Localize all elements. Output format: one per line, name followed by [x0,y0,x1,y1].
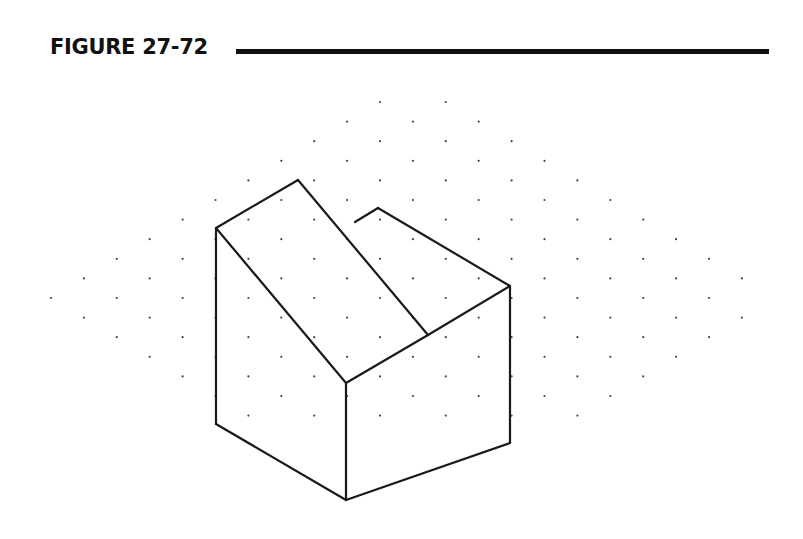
grid-dot [412,160,414,162]
grid-dot [280,238,282,240]
grid-dot [182,336,184,338]
edge-AB [216,180,298,228]
object-edges [216,180,510,500]
grid-dot [346,121,348,123]
grid-dot [708,258,710,260]
grid-dot [609,356,611,358]
grid-dot [116,258,118,260]
grid-dot [313,258,315,260]
grid-dot [445,101,447,103]
grid-dot [708,336,710,338]
grid-dot [412,121,414,123]
grid-dot [445,140,447,142]
grid-dot [478,199,480,201]
grid-dot [576,336,578,338]
grid-dot [280,356,282,358]
grid-dot [379,415,381,417]
grid-dot [543,238,545,240]
edge-CD [346,335,428,383]
grid-dot [478,277,480,279]
grid-dot [511,258,513,260]
grid-dot [675,317,677,319]
grid-dot [182,258,184,260]
grid-dot [313,375,315,377]
grid-dot [149,356,151,358]
grid-dot [445,258,447,260]
grid-dot [313,415,315,417]
grid-dot [511,179,513,181]
grid-dot [379,297,381,299]
grid-dot [149,317,151,319]
grid-dot [445,179,447,181]
grid-dot [478,317,480,319]
grid-dot [379,258,381,260]
grid-dot [741,277,743,279]
grid-dot [280,395,282,397]
grid-dot [543,199,545,201]
grid-dot [247,179,249,181]
edge-CG [428,286,510,335]
grid-dot [642,258,644,260]
grid-dot [642,297,644,299]
grid-dot [247,415,249,417]
grid-dot [445,297,447,299]
grid-dot [50,297,52,299]
grid-dot [346,356,348,358]
grid-dot [478,356,480,358]
grid-dot [83,317,85,319]
grid-dot [543,317,545,319]
edge-HI [346,443,510,500]
grid-dot [346,317,348,319]
grid-dot [379,375,381,377]
grid-dot [478,121,480,123]
grid-dot [642,375,644,377]
grid-dot [478,238,480,240]
grid-dot [313,336,315,338]
grid-dot [247,219,249,221]
grid-dot [609,277,611,279]
grid-dot [675,277,677,279]
grid-dot [313,219,315,221]
grid-dot [247,258,249,260]
grid-dot [708,297,710,299]
grid-dot [609,238,611,240]
grid-dot [313,297,315,299]
grid-dot [576,258,578,260]
grid-dot [379,219,381,221]
grid-dot [478,395,480,397]
grid-dot [280,160,282,162]
grid-dot [445,375,447,377]
grid-dot [543,356,545,358]
grid-dot [609,395,611,397]
grid-dot [741,317,743,319]
grid-dot [478,160,480,162]
grid-dot [445,219,447,221]
grid-dot [379,179,381,181]
edge-AD [216,228,346,383]
grid-dot [280,317,282,319]
grid-dot [576,179,578,181]
grid-dot [445,415,447,417]
grid-dot [313,179,315,181]
grid-dot [247,375,249,377]
grid-dot [609,199,611,201]
grid-dot [675,356,677,358]
grid-dot [576,415,578,417]
grid-dot [675,238,677,240]
grid-dot [280,199,282,201]
grid-dot [247,297,249,299]
grid-dot [379,140,381,142]
grid-dot [642,336,644,338]
grid-dot [412,395,414,397]
grid-dot [543,160,545,162]
grid-dot [412,199,414,201]
grid-dot [412,238,414,240]
grid-dot [116,297,118,299]
grid-dot [445,336,447,338]
grid-dot [346,199,348,201]
grid-dot [511,219,513,221]
grid-dot [214,199,216,201]
grid-dot [543,277,545,279]
grid-dot [182,297,184,299]
grid-dot [412,277,414,279]
